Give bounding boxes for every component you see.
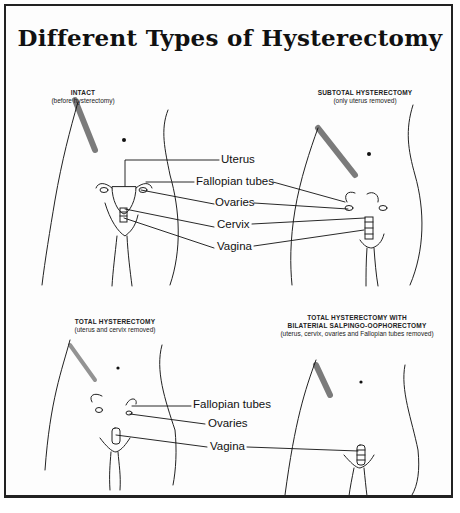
torso-subtotal-icon [291,105,422,286]
label-ovaries: Ovaries [215,196,255,208]
label-uterus: Uterus [221,153,255,165]
torso-total-bso-icon [285,360,419,496]
torso-total-icon [45,340,176,490]
label-vagina-bottom: Vagina [210,440,245,452]
anatomy-illustration [0,0,460,513]
label-vagina: Vagina [217,240,252,252]
label-fallopian-tubes-bottom: Fallopian tubes [193,398,271,410]
label-cervix: Cervix [217,218,250,230]
label-ovaries-bottom: Ovaries [208,417,248,429]
label-fallopian-tubes: Fallopian tubes [196,175,274,187]
